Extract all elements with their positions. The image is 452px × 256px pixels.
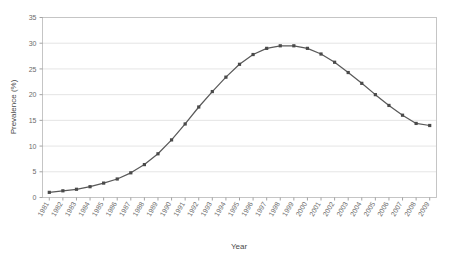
x-axis-tick-label: 1991 [172,200,186,217]
y-axis-tick-label: 35 [29,14,37,21]
data-point-marker [279,44,282,47]
data-point-marker [129,171,132,174]
y-axis-tick-label: 20 [29,91,37,98]
x-axis-tick-label: 1995 [227,200,241,217]
y-axis-tick-label: 25 [29,66,37,73]
gridlines [43,43,437,172]
x-axis-tick-label: 1994 [213,200,227,217]
data-point-marker [170,138,173,141]
x-axis-tick-label: 1989 [145,200,159,217]
data-point-marker [224,76,227,79]
data-point-marker [143,163,146,166]
data-point-marker [374,93,377,96]
data-point-marker [102,182,105,185]
data-point-marker [211,90,214,93]
data-point-marker [251,53,254,56]
x-axis-title: Year [231,242,248,251]
x-axis-tick-label: 2007 [390,200,404,217]
x-axis-tick-label: 2001 [308,200,322,217]
data-point-marker [156,152,159,155]
x-axis-tick-label: 1996 [240,200,254,217]
data-point-marker [347,71,350,74]
x-axis-tick-label: 1982 [50,200,64,217]
data-point-marker [401,114,404,117]
x-axis-tick-label: 1984 [77,200,91,217]
data-point-marker [333,61,336,64]
x-axis-tick-label: 2009 [417,200,431,217]
x-axis-tick-label: 2004 [349,200,363,217]
data-point-marker [306,47,309,50]
x-axis-tick-label: 2000 [294,200,308,217]
data-point-marker [415,122,418,125]
y-axis-tick-label: 5 [33,168,37,175]
data-point-marker [61,189,64,192]
x-axis-tick-label: 2006 [376,200,390,217]
y-axis-tick-label: 0 [33,194,37,201]
prevalence-series-line [49,46,429,193]
y-axis-tick-label: 30 [29,40,37,47]
x-axis-tick-label: 1999 [281,200,295,217]
x-axis-tick-label: 1985 [91,200,105,217]
data-point-marker [116,177,119,180]
x-axis-tick-label: 1981 [36,200,50,217]
y-axis-tick-label: 10 [29,143,37,150]
x-axis-tick-label: 1990 [159,200,173,217]
data-point-marker [265,47,268,50]
data-point-marker [48,191,51,194]
data-point-marker [197,105,200,108]
data-point-marker [319,52,322,55]
x-axis-tick-label: 1998 [267,200,281,217]
x-axis-tick-labels: 1981198219831984198519861987198819891990… [36,200,430,217]
data-point-marker [184,122,187,125]
data-point-marker [238,63,241,66]
x-axis-tick-label: 1992 [186,200,200,217]
x-axis-tick-label: 1987 [118,200,132,217]
data-point-marker [360,82,363,85]
data-point-marker [387,104,390,107]
x-axis-tick-label: 1997 [254,200,268,217]
y-axis-tick-labels: 05101520253035 [29,14,37,201]
y-axis-title: Prevalence (%) [9,79,18,134]
y-axis-tick-label: 15 [29,117,37,124]
data-point-marker [428,124,431,127]
x-axis-tick-label: 1993 [199,200,213,217]
x-axis-tick-label: 2003 [335,200,349,217]
x-axis-tick-label: 1988 [131,200,145,217]
data-point-marker [75,188,78,191]
x-axis-tick-label: 2008 [403,200,417,217]
chart-canvas: 05101520253035 1981198219831984198519861… [0,0,452,256]
x-axis-tick-label: 2005 [362,200,376,217]
prevalence-line-chart: 05101520253035 1981198219831984198519861… [0,0,452,256]
x-axis-tick-label: 2002 [322,200,336,217]
data-point-marker [88,185,91,188]
x-axis-tick-label: 1986 [104,200,118,217]
data-point-marker [292,44,295,47]
x-axis-tick-label: 1983 [63,200,77,217]
plot-frame [43,18,437,198]
